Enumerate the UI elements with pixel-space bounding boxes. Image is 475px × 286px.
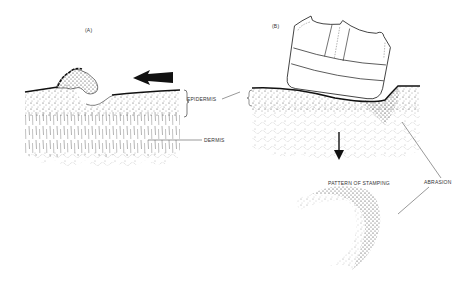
dermis-label: DERMIS xyxy=(204,137,225,143)
panel-a-illustration xyxy=(25,68,240,166)
shoe-heel-object xyxy=(286,14,393,101)
abrasion-label: ABRASION xyxy=(424,179,451,185)
panel-a-label: (A) xyxy=(85,27,92,33)
epidermis-label: EPIDERMIS xyxy=(187,96,216,102)
panel-b-illustration xyxy=(247,14,441,270)
panel-b-label: (B) xyxy=(272,23,279,29)
diagram-canvas xyxy=(0,0,475,286)
epidermis-bracket xyxy=(184,90,189,117)
pattern-of-stamping-label: PATTERN OF STAMPING xyxy=(328,180,390,186)
direction-arrow-icon xyxy=(133,70,173,85)
